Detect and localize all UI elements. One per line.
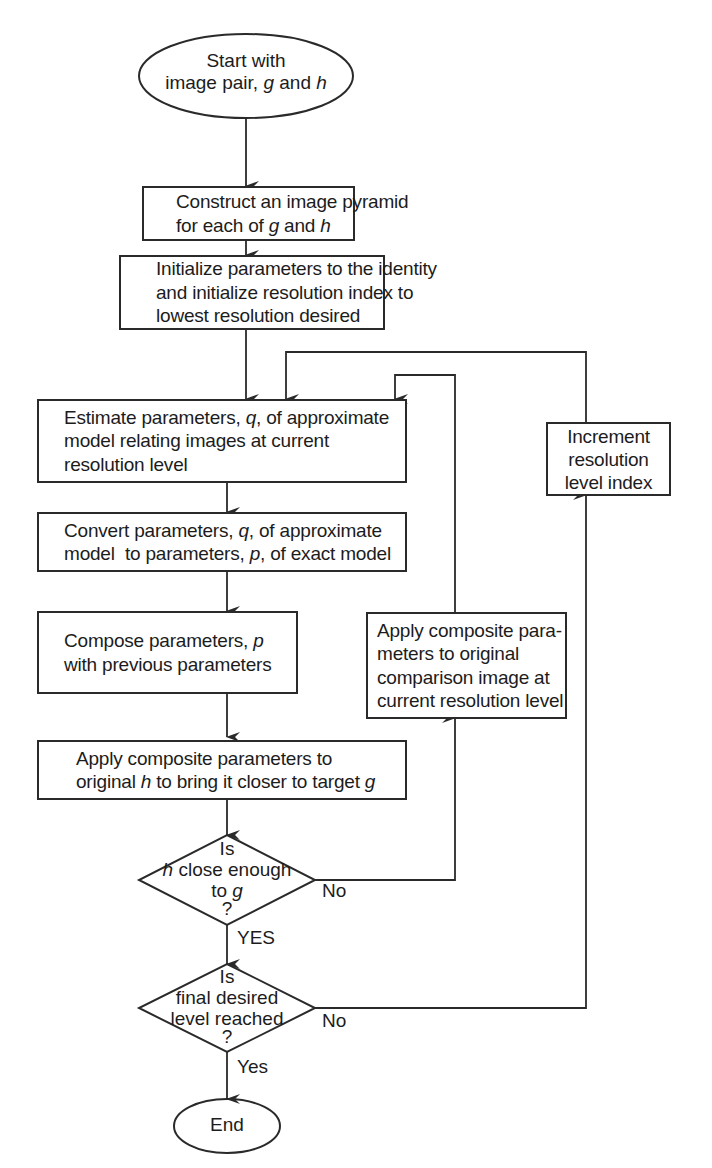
apply-h-line-1: Apply composite parameters to [76,747,405,771]
close-line-1: Is [147,838,307,859]
close-enough-yes-label: YES [237,927,275,949]
final-level-decision: Is final desired level reached ? [147,966,307,1045]
close-line-2: h close enough [147,859,307,880]
final-line-4: ? [147,1029,307,1045]
compose-line-1: Compose parameters, p [64,629,296,653]
end-terminal: End [177,1114,277,1136]
pyramid-line-2: for each of g and h [176,214,353,238]
apply-composite-to-comparison-step: Apply composite para- meters to original… [366,612,567,719]
connectors [0,0,712,1168]
init-line-3: lowest resolution desired [156,304,383,328]
close-enough-decision: Is h close enough to g ? [147,838,307,917]
start-line-1: Start with [146,50,346,72]
initialize-parameters-step: Initialize parameters to the identity an… [119,255,385,330]
compose-parameters-step: Compose parameters, p with previous para… [37,611,298,694]
apply-cmp-line-3: comparison image at [377,666,565,690]
convert-line-1: Convert parameters, q, of approximate [64,519,405,543]
convert-line-2: model to parameters, p, of exact model [64,542,405,566]
end-label: End [177,1114,277,1136]
final-level-yes-label: Yes [237,1056,268,1078]
flowchart: Start with image pair, g and h Construct… [0,0,712,1168]
start-line-2: image pair, g and h [146,72,346,94]
apply-cmp-line-2: meters to original [377,642,565,666]
apply-composite-to-h-step: Apply composite parameters to original h… [37,740,407,800]
apply-cmp-line-4: current resolution level [377,689,565,713]
increment-resolution-step: Increment resolution level index [546,422,671,496]
init-line-1: Initialize parameters to the identity [156,257,383,281]
final-line-2: final desired [147,987,307,1008]
pyramid-line-1: Construct an image pyramid [176,190,353,214]
close-enough-no-label: No [322,880,346,902]
construct-pyramid-step: Construct an image pyramid for each of g… [142,186,355,241]
convert-parameters-step: Convert parameters, q, of approximate mo… [37,512,407,572]
compose-line-2: with previous parameters [64,653,296,677]
estimate-line-2: model relating images at current [64,429,405,453]
final-line-1: Is [147,966,307,987]
close-line-4: ? [147,901,307,917]
apply-cmp-line-1: Apply composite para- [377,619,565,643]
final-level-no-label: No [322,1010,346,1032]
estimate-line-3: resolution level [64,453,405,477]
apply-h-line-2: original h to bring it closer to target … [76,770,405,794]
estimate-line-1: Estimate parameters, q, of approximate [64,406,405,430]
increment-line-3: level index [565,471,653,494]
start-terminal: Start with image pair, g and h [146,50,346,94]
init-line-2: and initialize resolution index to [156,281,383,305]
increment-line-1: Increment [567,425,650,448]
increment-line-2: resolution [568,448,648,471]
estimate-parameters-step: Estimate parameters, q, of approximate m… [37,399,407,483]
